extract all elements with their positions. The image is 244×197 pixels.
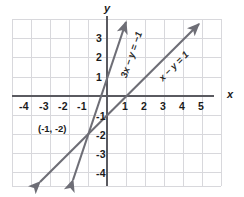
x-tick-label: 4 [179,101,185,112]
graph-figure: y x -4 -3 -2 -1 1 2 3 4 5 3 2 1 -1 -2 -3… [0,0,244,197]
x-tick-label: 1 [122,101,128,112]
x-tick-label: -3 [39,101,49,112]
x-axis-label: x [227,89,233,100]
x-tick-label: 5 [198,101,204,112]
x-tick-label: -1 [77,101,87,112]
intersection-point-label: (-1, -2) [38,124,67,134]
y-tick-label: 3 [96,33,102,44]
y-tick-label: -1 [96,111,106,122]
x-tick-label: -2 [58,101,68,112]
y-tick-label: -3 [96,149,106,160]
y-tick-label: 2 [96,52,102,63]
x-tick-label: 3 [160,101,166,112]
y-tick-label: -2 [96,130,106,141]
y-tick-label: 1 [96,72,102,83]
x-tick-label: 2 [141,101,147,112]
x-tick-label: -4 [19,101,29,112]
y-tick-label: -4 [96,168,106,179]
y-axis-label: y [104,3,110,14]
coordinate-plane-svg [0,0,244,197]
